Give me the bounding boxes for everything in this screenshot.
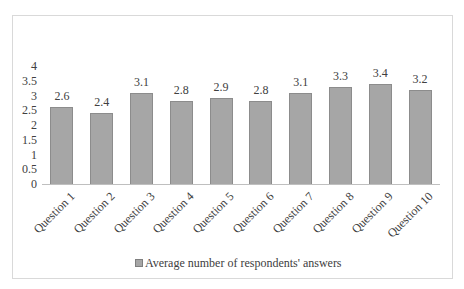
data-label: 2.9 <box>201 81 241 93</box>
bar <box>289 93 312 184</box>
legend-label: Average number of respondents' answers <box>145 256 342 270</box>
y-tick-label: 0 <box>31 178 37 190</box>
bar <box>369 84 392 184</box>
y-tick-label: 2.5 <box>22 104 37 116</box>
data-label: 2.8 <box>161 84 201 96</box>
bar <box>329 87 352 184</box>
data-label: 2.8 <box>241 84 281 96</box>
bar <box>210 98 233 184</box>
y-tick-label: 2 <box>31 119 37 131</box>
y-tick-label: 3.5 <box>22 75 37 87</box>
bar <box>170 101 193 184</box>
y-tick-label: 4 <box>31 60 37 72</box>
data-label: 3.1 <box>281 76 321 88</box>
y-tick-label: 0.5 <box>22 163 37 175</box>
legend: Average number of respondents' answers <box>135 256 342 270</box>
data-label: 3.3 <box>321 70 361 82</box>
data-label: 3.1 <box>122 76 162 88</box>
data-label: 3.4 <box>360 67 400 79</box>
data-label: 3.2 <box>400 73 440 85</box>
bar <box>409 90 432 184</box>
x-axis-line <box>42 184 440 185</box>
bar <box>249 101 272 184</box>
y-tick-label: 3 <box>31 90 37 102</box>
bar <box>90 113 113 184</box>
bar <box>50 107 73 184</box>
data-label: 2.4 <box>82 96 122 108</box>
legend-swatch-icon <box>135 259 143 267</box>
data-label: 2.6 <box>42 90 82 102</box>
bar <box>130 93 153 184</box>
y-tick-label: 1.5 <box>22 134 37 146</box>
y-tick-label: 1 <box>31 149 37 161</box>
